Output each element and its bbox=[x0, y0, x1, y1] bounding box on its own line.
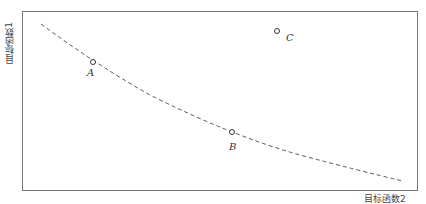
y-axis-label: 目标函数1 bbox=[2, 22, 14, 64]
point-a-label: A bbox=[87, 67, 94, 78]
point-b-label: B bbox=[229, 141, 236, 152]
point-c-marker bbox=[275, 29, 280, 34]
point-b-marker bbox=[230, 130, 235, 135]
point-a-marker bbox=[91, 60, 96, 65]
point-c-label: C bbox=[286, 32, 294, 43]
pareto-plot bbox=[0, 0, 426, 204]
x-axis-label: 目标函数2 bbox=[364, 192, 406, 204]
pareto-front-curve bbox=[41, 24, 403, 181]
